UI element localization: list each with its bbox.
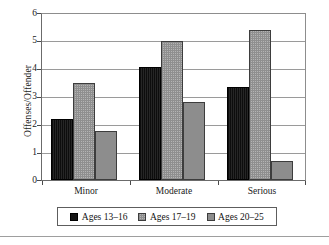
x-tick-mark-end xyxy=(305,181,306,185)
legend-swatch-icon-ages-13-16 xyxy=(70,213,78,221)
bar-minor-series-3 xyxy=(95,131,117,180)
legend-entry-ages-20-25: Ages 20–25 xyxy=(207,212,264,222)
x-tick-mark-1 xyxy=(130,181,131,185)
y-tick-label-3: 3 xyxy=(0,92,37,102)
bars-layer xyxy=(42,13,305,180)
y-tick-label-1: 1 xyxy=(0,148,37,158)
bar-moderate-series-1 xyxy=(139,67,161,180)
bar-chart-figure: Offenses/Offender 6 5 4 3 2 1 0 Minor Mo… xyxy=(0,0,329,245)
bar-moderate-series-3 xyxy=(183,102,205,180)
legend-entry-ages-17-19: Ages 17–19 xyxy=(138,212,195,222)
y-tick-label-4: 4 xyxy=(0,64,37,74)
chart-legend: Ages 13–16 Ages 17–19 Ages 20–25 xyxy=(57,207,277,226)
x-category-label-serious: Serious xyxy=(218,186,306,196)
legend-swatch-icon-ages-17-19 xyxy=(138,213,146,221)
bar-serious-series-1 xyxy=(227,87,249,180)
y-tick-label-6: 6 xyxy=(0,9,37,19)
y-tick-label-0: 0 xyxy=(0,176,37,186)
y-tick-label-2: 2 xyxy=(0,120,37,130)
x-tick-mark-start xyxy=(42,181,43,185)
legend-entry-ages-13-16: Ages 13–16 xyxy=(70,212,127,222)
bar-moderate-series-2 xyxy=(161,41,183,180)
bar-minor-series-2 xyxy=(73,83,95,180)
x-category-label-minor: Minor xyxy=(42,186,130,196)
x-category-label-moderate: Moderate xyxy=(130,186,218,196)
x-tick-mark-2 xyxy=(218,181,219,185)
legend-label-ages-13-16: Ages 13–16 xyxy=(82,212,128,222)
legend-label-ages-17-19: Ages 17–19 xyxy=(150,212,196,222)
bar-serious-series-3 xyxy=(271,161,293,180)
legend-swatch-icon-ages-20-25 xyxy=(207,213,215,221)
y-tick-label-5: 5 xyxy=(0,36,37,46)
legend-label-ages-20-25: Ages 20–25 xyxy=(218,212,264,222)
bar-serious-series-2 xyxy=(249,30,271,180)
bottom-divider xyxy=(0,236,329,237)
bar-minor-series-1 xyxy=(51,119,73,180)
